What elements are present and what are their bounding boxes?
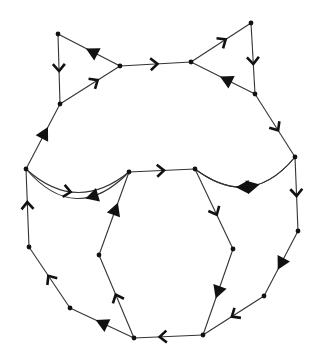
graph-node [262,294,267,299]
graph-edge [60,66,120,104]
graph-node [231,247,236,252]
graph-edge [26,169,129,193]
graph-edge [134,335,203,338]
graph-edge [26,169,129,199]
graph-node [56,32,61,37]
graph-node [118,64,123,69]
node-layer [24,21,301,341]
graph-edge [29,247,70,308]
graph-edge [251,23,255,94]
graph-node [296,229,301,234]
graph-node [97,253,102,258]
triangle-arrow-icon [36,124,54,142]
graph-node [58,102,63,107]
graph-node [249,21,254,26]
graph-edge [255,94,295,157]
graph-edge [26,169,29,247]
directed-graph-canvas [0,0,318,352]
graph-node [253,92,258,97]
graph-node [27,245,32,250]
graph-node [193,167,198,172]
edge-layer [26,23,298,338]
graph-node [132,336,137,341]
graph-node [189,60,194,65]
graph-node [201,333,206,338]
triangle-arrow-icon [83,42,101,60]
graph-node [68,306,73,311]
graph-node [293,155,298,160]
arrowhead-layer [21,34,302,342]
graph-edge [203,296,264,335]
graph-node [127,170,132,175]
graph-edge [191,23,251,62]
graph-node [24,167,29,172]
triangle-arrow-icon [93,314,111,332]
triangle-arrow-icon [272,255,290,273]
triangle-arrow-icon [217,70,235,88]
triangle-arrow-icon [107,200,125,217]
triangle-arrow-icon [209,284,227,301]
